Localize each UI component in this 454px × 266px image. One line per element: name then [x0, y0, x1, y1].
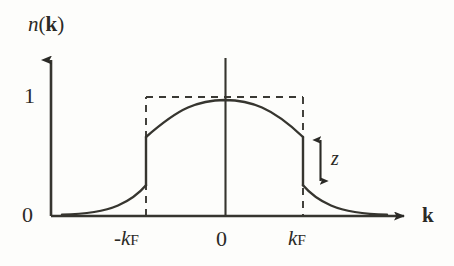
nk-curve-left-tail [62, 185, 146, 214]
kf-subscript: F [297, 231, 306, 248]
plot-canvas [0, 0, 454, 266]
y-axis-title-variable: k [46, 12, 58, 36]
y-axis-title-close-paren: ) [57, 12, 64, 36]
kf-symbol: k [288, 226, 297, 250]
y-axis-title-open-paren: ( [39, 12, 46, 36]
nk-curve-right-tail [303, 185, 387, 214]
z-jump-label: z [331, 148, 339, 168]
x-tick-label-negative-kf: -kF [114, 228, 139, 249]
kf-subscript: F [130, 231, 139, 248]
x-tick-label-zero: 0 [216, 228, 227, 250]
x-tick-label-kf: kF [288, 228, 306, 249]
y-tick-label-one: 1 [24, 85, 35, 107]
y-axis-title: n(k) [28, 14, 64, 35]
minus-sign: - [114, 226, 121, 250]
kf-symbol: k [121, 226, 130, 250]
y-tick-label-zero: 0 [22, 204, 33, 226]
momentum-distribution-figure: n(k) k 1 0 -kF 0 kF z [0, 0, 454, 266]
y-axis-title-function: n [28, 12, 39, 36]
x-axis-title: k [422, 205, 434, 226]
